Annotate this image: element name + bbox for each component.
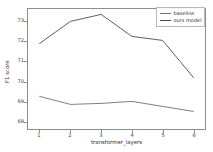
legend-item-baseline: baseline bbox=[160, 10, 202, 17]
legend-swatch-baseline bbox=[160, 13, 171, 14]
legend-item-ours-model: ours model bbox=[160, 17, 202, 24]
y-axis-title: F1 score bbox=[5, 50, 10, 94]
figure: 686970717273 transformer_layers F1 score… bbox=[0, 0, 213, 152]
legend-label-baseline: baseline bbox=[174, 11, 195, 16]
x-tick-mark bbox=[70, 130, 71, 133]
x-tick-label: 1 bbox=[37, 133, 40, 138]
y-tick-mark bbox=[24, 102, 27, 103]
y-tick-label: 68 bbox=[17, 120, 24, 125]
legend: baseline ours model bbox=[156, 7, 205, 27]
x-tick-label: 4 bbox=[130, 133, 133, 138]
x-tick-label: 2 bbox=[68, 133, 71, 138]
x-tick-mark bbox=[101, 130, 102, 133]
y-tick-mark bbox=[24, 41, 27, 42]
legend-label-ours-model: ours model bbox=[174, 18, 202, 23]
x-tick-label: 5 bbox=[161, 133, 164, 138]
y-tick-mark bbox=[24, 61, 27, 62]
y-tick-mark bbox=[24, 122, 27, 123]
x-tick-label: 6 bbox=[193, 133, 196, 138]
legend-swatch-ours-model bbox=[160, 20, 171, 21]
y-tick-label: 72 bbox=[17, 38, 24, 43]
y-tick-label: 73 bbox=[17, 18, 24, 23]
y-tick-mark bbox=[24, 82, 27, 83]
y-tick-label: 71 bbox=[17, 59, 24, 64]
x-tick-mark bbox=[194, 130, 195, 133]
x-axis-title: transformer_layers bbox=[27, 140, 206, 145]
y-tick-label: 70 bbox=[17, 79, 24, 84]
series-line bbox=[40, 96, 194, 111]
x-tick-label: 3 bbox=[99, 133, 102, 138]
x-tick-mark bbox=[163, 130, 164, 133]
x-tick-mark bbox=[39, 130, 40, 133]
y-tick-label: 69 bbox=[17, 99, 24, 104]
y-tick-mark bbox=[24, 21, 27, 22]
x-tick-mark bbox=[132, 130, 133, 133]
